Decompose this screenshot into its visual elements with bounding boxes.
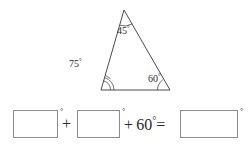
angle-label-right-value: 60 [148, 73, 158, 84]
answer-input-3[interactable] [180, 110, 238, 138]
answer-input-1[interactable] [13, 110, 58, 138]
triangle-figure: 45° 75° 60° [0, 0, 250, 100]
plus-operator-1: + [62, 116, 71, 132]
known-term-expression: + 60°= [124, 116, 165, 133]
triangle-drawing [0, 0, 250, 100]
angle-label-left: 75° [69, 58, 82, 69]
answer-field-2-group: ° [77, 110, 120, 138]
equals-operator: = [156, 116, 165, 133]
known-term-text: + 60 [124, 116, 152, 133]
answer-input-2[interactable] [77, 110, 120, 138]
angle-label-left-value: 75 [69, 58, 79, 69]
angle-label-apex: 45° [117, 25, 130, 36]
equation-row: ° + ° + 60°= ° [0, 104, 250, 147]
left-angle-arc-outer [105, 78, 114, 90]
angle-label-right: 60° [148, 73, 161, 84]
answer-field-1-group: ° [13, 110, 58, 138]
worksheet-canvas: 45° 75° 60° ° + ° + 60°= ° [0, 0, 250, 147]
degree-symbol-icon: ° [122, 108, 125, 116]
answer-field-3-group: ° [180, 110, 238, 138]
degree-symbol-icon: ° [240, 108, 243, 116]
degree-symbol-icon: ° [158, 72, 161, 80]
left-angle-arc-inner [104, 81, 111, 90]
degree-symbol-icon: ° [127, 24, 130, 32]
angle-label-apex-value: 45 [117, 25, 127, 36]
degree-symbol-icon: ° [79, 57, 82, 65]
